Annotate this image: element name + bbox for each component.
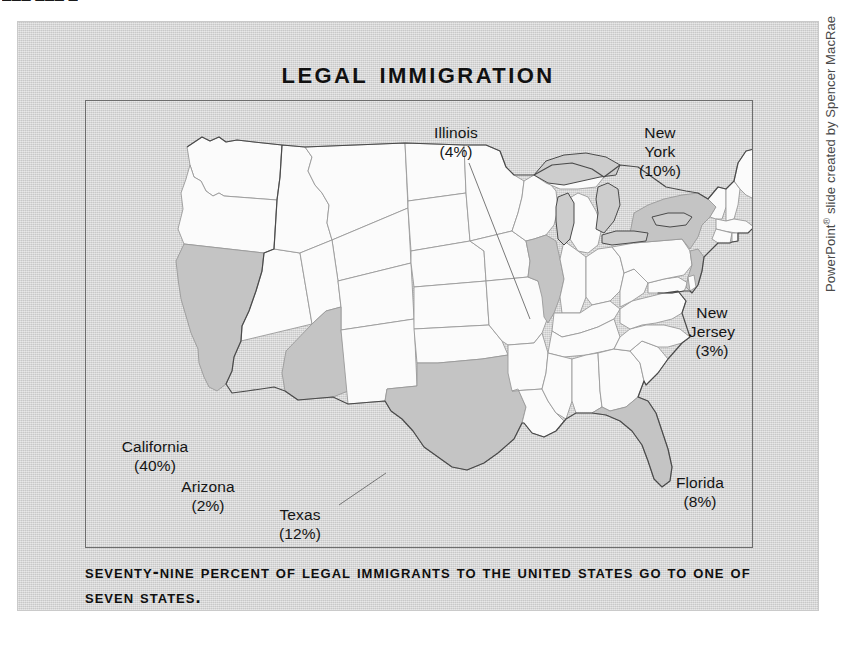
slide-credit: PowerPoint® slide created by Spencer Mac… <box>822 0 838 292</box>
map-label-new-york: New York (10%) <box>614 123 706 180</box>
map-label-new-jersey: New Jersey (3%) <box>664 303 760 360</box>
map-label-illinois: Illinois (4%) <box>408 123 504 161</box>
state-ohio <box>586 247 624 305</box>
credit-suffix: slide created by Spencer MacRae <box>823 16 838 218</box>
great-lake-huron <box>596 183 620 233</box>
registered-trademark-icon: ® <box>822 218 832 225</box>
map-label-texas: Texas (12%) <box>254 505 346 543</box>
map-label-california: California (40%) <box>90 437 220 475</box>
presentation-slide: Legal Immigration <box>18 22 818 610</box>
map-label-arizona: Arizona (2%) <box>156 477 260 515</box>
slide-title: Legal Immigration <box>18 54 818 91</box>
state-alabama <box>572 353 602 413</box>
credit-prefix: PowerPoint <box>823 225 838 292</box>
map-frame: California (40%) Arizona (2%) Texas (12%… <box>85 100 753 548</box>
page-text-fragment: ███ ███ █ <box>2 0 78 1</box>
great-lake-superior <box>534 153 620 185</box>
slide-caption: Seventy-nine percent of legal immigrants… <box>85 560 775 610</box>
state-kansas <box>414 281 489 329</box>
map-label-florida: Florida (8%) <box>652 473 748 511</box>
leader-line-texas <box>339 473 386 505</box>
great-lake-ontario <box>652 213 692 227</box>
